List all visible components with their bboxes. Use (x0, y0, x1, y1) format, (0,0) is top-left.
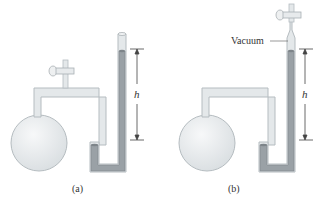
flask-b (179, 115, 235, 171)
open-end-a (118, 33, 126, 36)
manometer-diagram (0, 0, 322, 205)
stopcock-body-b (283, 12, 301, 18)
height-label-b: h (302, 88, 308, 100)
caption-b: (b) (228, 183, 240, 194)
height-label-a: h (134, 88, 140, 100)
panel-a (11, 33, 144, 173)
stopcock-body-a (56, 68, 74, 74)
mercury-a (91, 51, 125, 171)
flask-a (11, 115, 67, 171)
panel-b (179, 4, 313, 172)
vacuum-label: Vacuum (231, 35, 264, 46)
mercury-b (260, 51, 294, 171)
caption-a: (a) (72, 183, 83, 194)
